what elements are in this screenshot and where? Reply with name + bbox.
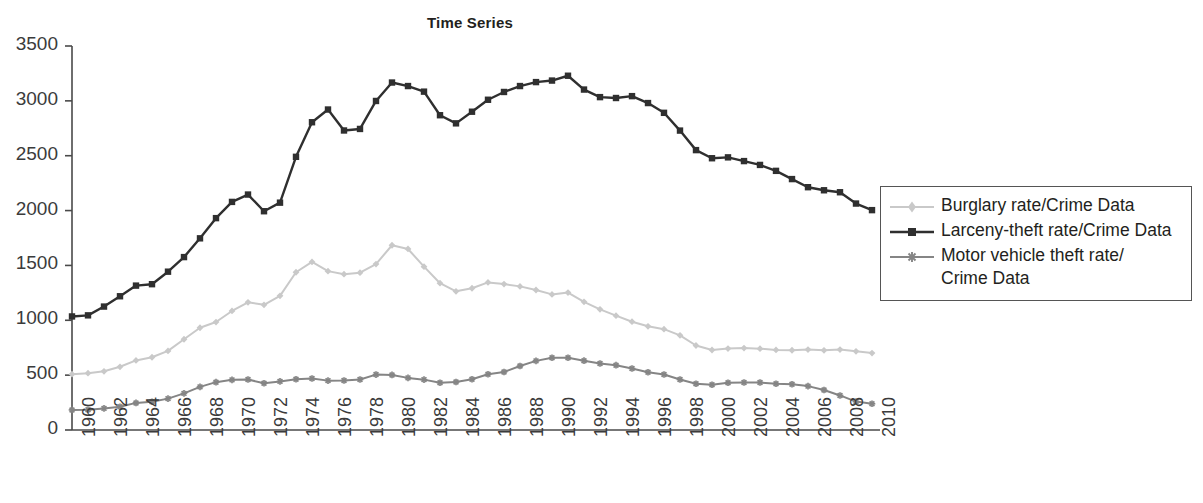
y-axis-tick-label: 1000: [0, 307, 58, 329]
x-axis-tick-label: 1962: [111, 397, 132, 437]
x-axis-tick-label: 2008: [847, 397, 868, 437]
x-axis-tick-label: 1990: [559, 397, 580, 437]
legend-swatch-motor-vehicle-theft: [889, 246, 935, 268]
x-axis-tick-label: 1970: [239, 397, 260, 437]
legend-item-larceny: Larceny-theft rate/Crime Data: [889, 219, 1183, 243]
x-axis-tick-label: 1986: [495, 397, 516, 437]
legend-item-burglary: Burglary rate/Crime Data: [889, 194, 1183, 218]
y-axis-tick-label: 2000: [0, 198, 58, 220]
data-series-layer: [69, 73, 876, 414]
y-axis-tick-label: 0: [0, 417, 58, 439]
legend-swatch-burglary: [889, 196, 935, 218]
x-axis-tick-label: 2004: [783, 397, 804, 437]
x-axis-tick-label: 1992: [591, 397, 612, 437]
y-axis-tick-label: 2500: [0, 143, 58, 165]
x-axis-tick-label: 1998: [687, 397, 708, 437]
y-axis-tick-label: 500: [0, 362, 58, 384]
chart-figure: Time Series 0500100015002000250030003500…: [0, 0, 1203, 503]
x-axis-tick-label: 1960: [79, 397, 100, 437]
legend-item-motor-vehicle-theft: Motor vehicle theft rate/Crime Data: [889, 244, 1183, 290]
x-axis-tick-label: 1968: [207, 397, 228, 437]
x-axis-tick-label: 1964: [143, 397, 164, 437]
axis-lines: [72, 46, 880, 430]
series-diamond: [69, 242, 876, 378]
x-axis-tick-label: 2010: [879, 397, 900, 437]
x-axis-tick-label: 1972: [271, 397, 292, 437]
y-axis-tick-label: 1500: [0, 252, 58, 274]
x-axis-tick-label: 1988: [527, 397, 548, 437]
x-axis-tick-label: 2000: [719, 397, 740, 437]
x-axis-tick-label: 1976: [335, 397, 356, 437]
legend-label-motor-vehicle-theft: Motor vehicle theft rate/Crime Data: [941, 244, 1124, 290]
legend-label-burglary: Burglary rate/Crime Data: [941, 194, 1135, 217]
x-axis-tick-label: 1982: [431, 397, 452, 437]
legend-label-motor-line2: Crime Data: [941, 268, 1030, 288]
x-axis-tick-label: 1980: [399, 397, 420, 437]
x-axis-tick-label: 1994: [623, 397, 644, 437]
legend-label-larceny: Larceny-theft rate/Crime Data: [941, 219, 1172, 242]
x-axis-tick-label: 1966: [175, 397, 196, 437]
x-axis-tick-label: 2002: [751, 397, 772, 437]
x-axis-tick-label: 1978: [367, 397, 388, 437]
x-axis-tick-label: 1996: [655, 397, 676, 437]
x-axis-tick-label: 1984: [463, 397, 484, 437]
series-square: [69, 73, 875, 320]
legend-swatch-larceny: [889, 221, 935, 243]
y-axis-tick-label: 3000: [0, 88, 58, 110]
x-axis-tick-label: 2006: [815, 397, 836, 437]
legend-label-motor-line1: Motor vehicle theft rate/: [941, 245, 1124, 265]
chart-legend: Burglary rate/Crime Data Larceny-theft r…: [880, 186, 1192, 301]
x-axis-tick-label: 1974: [303, 397, 324, 437]
y-axis-tick-label: 3500: [0, 33, 58, 55]
